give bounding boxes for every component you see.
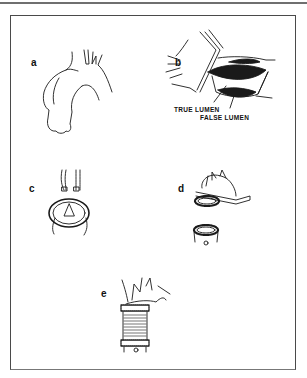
panel-d: d <box>178 170 250 245</box>
panel-e: e <box>101 278 170 352</box>
panel-d-label: d <box>178 183 184 194</box>
panel-e-label: e <box>101 288 107 299</box>
false-lumen-label: FALSE LUMEN <box>200 114 249 121</box>
panel-b: b TRUE LUMEN FALSE LUMEN <box>166 30 275 121</box>
true-lumen-label: TRUE LUMEN <box>174 106 220 113</box>
panel-a: a <box>31 50 112 133</box>
panel-c-label: c <box>29 183 35 194</box>
panel-a-label: a <box>31 57 37 68</box>
figure-illustration: a b TRUE LUMEN FALSE LUMEN c <box>0 0 307 378</box>
panel-c: c <box>29 170 89 235</box>
